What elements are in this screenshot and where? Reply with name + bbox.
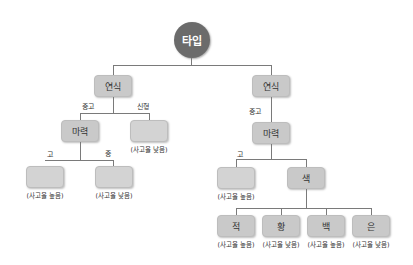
left-year-node: 연식	[94, 75, 132, 97]
connector	[80, 113, 150, 114]
color-leaf-white: 백	[307, 215, 345, 237]
edge-label-mid: 중	[105, 148, 111, 158]
root-node-type: 타입	[174, 22, 210, 58]
color-leaf-red: 적	[217, 215, 255, 237]
right-power-node: 마력	[252, 122, 290, 144]
edge-label-new: 신형	[137, 101, 149, 111]
connector	[113, 97, 114, 113]
connector	[113, 65, 272, 66]
leaf-note: (사고율 낮음)	[346, 239, 396, 249]
connector	[149, 113, 150, 120]
connector	[236, 208, 237, 215]
connector	[271, 97, 272, 122]
connector	[371, 208, 372, 215]
leaf-note: (사고율 높음)	[301, 239, 351, 249]
edge-label-high: 고	[237, 149, 243, 159]
connector	[271, 144, 272, 159]
connector	[281, 208, 282, 215]
leaf-note: (사고율 낮음)	[89, 190, 139, 200]
left-power-node: 마력	[61, 120, 99, 142]
color-leaf-yellow: 황	[262, 215, 300, 237]
color-leaf-silver: 은	[352, 215, 390, 237]
connector	[236, 159, 307, 160]
connector	[326, 208, 327, 215]
leaf-note: (사고율 높음)	[20, 190, 70, 200]
right-high-leaf	[217, 167, 255, 189]
connector	[191, 58, 192, 65]
connector	[271, 65, 272, 75]
connector	[113, 65, 114, 75]
connector	[45, 160, 114, 161]
right-year-node: 연식	[252, 75, 290, 97]
edge-label-used: 중고	[249, 106, 261, 116]
leaf-note: (사고율 높음)	[211, 191, 261, 201]
right-color-node: 색	[287, 167, 325, 189]
connector	[306, 159, 307, 167]
leaf-note: (사고율 낮음)	[256, 239, 306, 249]
connector	[80, 142, 81, 160]
connector	[306, 189, 307, 208]
connector	[236, 208, 372, 209]
connector	[236, 159, 237, 167]
connector	[80, 113, 81, 120]
edge-label-high: 고	[47, 149, 53, 159]
left-new-leaf	[130, 120, 168, 142]
left-high-leaf	[26, 166, 64, 188]
left-mid-leaf	[95, 166, 133, 188]
leaf-note: (사고율 높음)	[211, 239, 261, 249]
edge-label-used: 중고	[82, 101, 94, 111]
leaf-note: (사고율 낮음)	[124, 144, 174, 154]
